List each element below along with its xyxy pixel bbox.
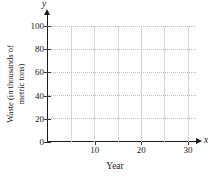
x-axis-arrow-icon (196, 138, 202, 144)
horizontal-gridline (48, 72, 196, 73)
vertical-gridline (188, 26, 189, 142)
vertical-gridline (71, 26, 72, 142)
x-axis-title: Year (90, 160, 140, 172)
vertical-gridline (94, 26, 95, 142)
y-tick-label: 100 (14, 21, 44, 31)
horizontal-gridline (48, 49, 196, 50)
y-tick-label: 20 (14, 114, 44, 124)
horizontal-gridline (48, 95, 196, 96)
x-axis-symbol: x (204, 135, 208, 146)
empty-line-graph-chart: Waste (in thousands of metric tons) y x … (0, 0, 208, 176)
horizontal-gridline (48, 118, 196, 119)
y-tick-mark (44, 26, 51, 27)
y-tick-label: 80 (14, 44, 44, 54)
y-axis-symbol: y (42, 0, 54, 10)
y-tick-mark (44, 142, 51, 143)
y-tick-mark (44, 72, 51, 73)
y-tick-label: 0 (14, 137, 44, 147)
horizontal-gridline (48, 26, 196, 27)
y-axis-line (47, 12, 48, 142)
y-tick-label: 40 (14, 91, 44, 101)
x-tick-label: 10 (83, 145, 107, 155)
y-tick-mark (44, 96, 51, 97)
vertical-gridline (118, 26, 119, 142)
y-tick-label: 60 (14, 67, 44, 77)
y-tick-mark (44, 49, 51, 50)
vertical-gridline (164, 26, 165, 142)
y-tick-mark (44, 119, 51, 120)
x-tick-label: 30 (176, 145, 200, 155)
vertical-gridline (141, 26, 142, 142)
x-tick-label: 20 (129, 145, 153, 155)
